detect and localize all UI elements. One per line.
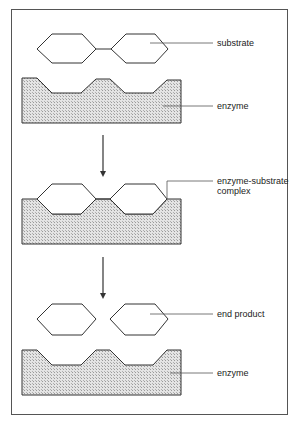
label-enzyme-bottom: enzyme	[217, 368, 249, 378]
label-end-product: end product	[217, 309, 265, 319]
enzyme-substrate-complex	[22, 184, 181, 244]
substrate-hexagon-left	[37, 34, 96, 63]
arrow-down-icon	[100, 257, 106, 299]
substrate-molecule	[37, 34, 168, 63]
diagram-canvas	[0, 0, 299, 423]
label-substrate: substrate	[217, 38, 254, 48]
label-complex-line1: enzyme-substrate	[217, 176, 289, 186]
product-hexagon-left	[37, 304, 96, 335]
complex-leader-line	[167, 181, 213, 199]
label-complex-line2: complex	[217, 186, 251, 196]
enzyme-top	[22, 78, 181, 123]
enzyme-bottom	[22, 350, 181, 395]
label-enzyme-top: enzyme	[217, 101, 249, 111]
end-product-molecules	[37, 304, 168, 335]
arrow-down-icon	[100, 135, 106, 177]
product-hexagon-right	[110, 304, 168, 335]
substrate-hexagon-right	[111, 34, 168, 63]
